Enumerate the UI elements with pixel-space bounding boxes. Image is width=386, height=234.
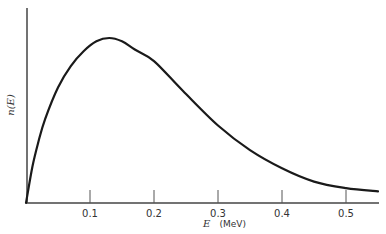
x-tick-label: 0.1 <box>82 208 98 219</box>
x-tick-label: 0.4 <box>274 208 290 219</box>
x-tick-label: 0.5 <box>338 208 354 219</box>
chart: 0.10.20.30.40.5 n(E) E (MeV) <box>0 0 386 234</box>
x-axis-unit: (MeV) <box>219 219 245 229</box>
data-line-n-of-e <box>26 38 378 203</box>
x-axis-variable: E <box>202 218 211 229</box>
x-tick-label: 0.2 <box>146 208 162 219</box>
x-axis-ticks <box>90 190 346 203</box>
y-axis-label: n(E) <box>5 94 16 116</box>
x-axis-tick-labels: 0.10.20.30.40.5 <box>82 208 354 219</box>
